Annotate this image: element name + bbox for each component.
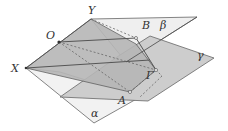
label-X: X xyxy=(10,62,20,75)
geometry-diagram: X O Y A B Γ α β γ xyxy=(0,0,228,131)
label-O: O xyxy=(46,29,55,42)
label-A: A xyxy=(117,94,126,107)
point-O xyxy=(57,40,60,43)
label-Gamma: Γ xyxy=(145,69,154,82)
label-B: B xyxy=(141,19,150,32)
label-gamma: γ xyxy=(197,49,204,62)
label-alpha: α xyxy=(91,107,99,120)
point-B-marker xyxy=(135,37,138,40)
label-Y: Y xyxy=(88,4,97,17)
point-A-marker xyxy=(129,91,132,94)
label-beta: β xyxy=(159,19,166,32)
point-X xyxy=(25,67,28,70)
point-Gamma-marker xyxy=(155,69,158,72)
